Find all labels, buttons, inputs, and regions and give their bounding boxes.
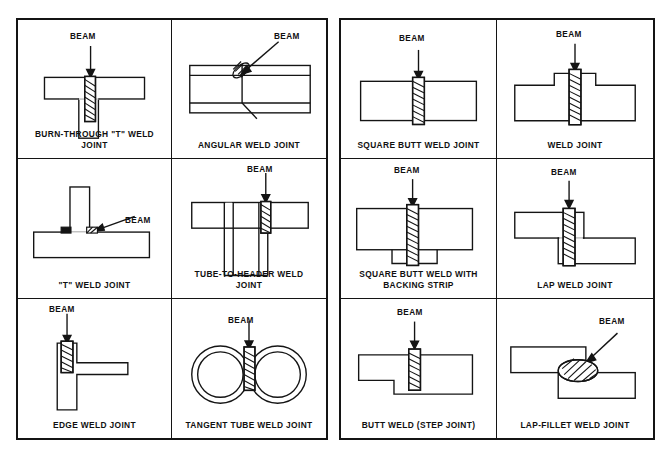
cell-edge-weld-joint: BEAM EDGE WELD JOINT [18,299,172,438]
figure-angular-weld-joint [172,20,326,158]
cell-weld-joint: BEAM WELD JOINT [497,20,653,159]
right-table: BEAM SQUARE BUTT WELD JOINT [339,18,655,440]
beam-label: BEAM [274,32,300,41]
cell-caption: EDGE WELD JOINT [18,420,171,431]
beam-label: BEAM [599,317,625,326]
figure-lap-fillet-weld-joint [497,299,653,438]
cell-lap-weld-joint: BEAM LAP WELD JOINT [497,159,653,298]
cell-square-butt-weld-joint: BEAM SQUARE BUTT WELD JOINT [341,20,497,159]
beam-label: BEAM [49,305,75,314]
beam-label: BEAM [551,168,577,177]
cell-butt-weld-step-joint: BEAM BUTT WELD (STEP JOINT) [341,299,497,438]
beam-label: BEAM [397,308,423,317]
figure-t-weld-joint [18,159,171,297]
cell-tangent-tube-weld-joint: BEAM TANGENT TUBE WELD JOINT [172,299,326,438]
cell-caption: LAP WELD JOINT [497,280,653,291]
cell-caption: BURN-THROUGH "T" WELD JOINT [18,129,171,151]
diagram-sheet: BEAM BURN-THROUGH "T" WELD JOINT [0,0,669,457]
figure-lap-weld-joint [497,159,653,297]
beam-label: BEAM [394,166,420,175]
beam-label: BEAM [125,216,151,225]
cell-square-butt-weld-with-backing-strip: BEAM SQUARE BUTT WELD WITH BACKING STRIP [341,159,497,298]
cell-caption: TUBE-TO-HEADER WELD JOINT [172,269,326,291]
cell-tube-to-header-weld-joint: BEAM TUBE-TO-HEADER WELD JOINT [172,159,326,298]
beam-label: BEAM [70,32,96,41]
cell-caption: BUTT WELD (STEP JOINT) [341,420,496,431]
cell-angular-weld-joint: BEAM ANGULAR WELD JOINT [172,20,326,159]
cell-caption: SQUARE BUTT WELD JOINT [341,140,496,151]
cell-caption: TANGENT TUBE WELD JOINT [172,420,326,431]
beam-label: BEAM [228,316,254,325]
cell-lap-fillet-weld-joint: BEAM LAP-FILLET WELD JOINT [497,299,653,438]
cell-caption: SQUARE BUTT WELD WITH BACKING STRIP [341,269,496,291]
cell-caption: ANGULAR WELD JOINT [172,140,326,151]
beam-label: BEAM [399,34,425,43]
beam-label: BEAM [556,30,582,39]
figure-edge-weld-joint [18,299,171,438]
figure-butt-weld-step-joint [341,299,496,438]
left-table: BEAM BURN-THROUGH "T" WELD JOINT [16,18,328,440]
beam-label: BEAM [247,165,273,174]
cell-burn-through-t-weld-joint: BEAM BURN-THROUGH "T" WELD JOINT [18,20,172,159]
cell-caption: WELD JOINT [497,140,653,151]
cell-t-weld-joint: BEAM "T" WELD JOINT [18,159,172,298]
cell-caption: LAP-FILLET WELD JOINT [497,420,653,431]
figure-weld-joint [497,20,653,158]
cell-caption: "T" WELD JOINT [18,280,171,291]
